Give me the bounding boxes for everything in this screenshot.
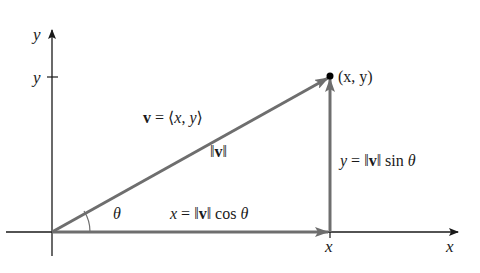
y-tick-label: y (31, 68, 41, 87)
vector-diagram: y y x x (x, y) v = ⟨x, y⟩ ‖v‖ y = ‖v‖ si… (0, 0, 480, 273)
angle-label: θ (113, 205, 121, 222)
vertical-component-label: y = ‖v‖ sin θ (338, 152, 416, 170)
x-axis-label: x (445, 237, 454, 256)
vector-definition-label: v = ⟨x, y⟩ (143, 109, 203, 127)
point-marker (327, 73, 334, 80)
horizontal-component-label: x = ‖v‖ cos θ (169, 205, 248, 222)
y-axis-label: y (31, 25, 41, 44)
vector-magnitude-label: ‖v‖ (210, 143, 227, 160)
x-tick-label: x (324, 237, 333, 256)
point-label: (x, y) (338, 68, 373, 86)
